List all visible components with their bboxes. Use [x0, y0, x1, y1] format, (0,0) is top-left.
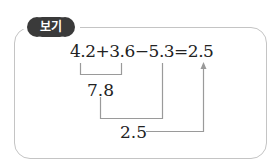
result-connector [146, 67, 204, 132]
arrow-up-icon [201, 62, 207, 69]
bracket-subtraction [101, 63, 163, 119]
bracket-first-addition [81, 63, 122, 75]
badge-label: 보기 [40, 20, 62, 34]
